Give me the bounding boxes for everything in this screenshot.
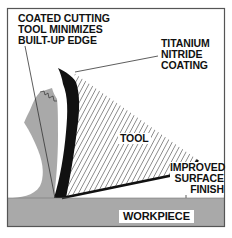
label-improved-surface-finish: IMPROVEDSURFACEFINISH bbox=[170, 162, 224, 195]
label-tin-line3: COATING bbox=[161, 59, 208, 71]
label-coated-cutting-tool: COATED CUTTINGTOOL MINIMIZESBUILT-UP EDG… bbox=[18, 13, 110, 46]
label-tool: TOOL bbox=[118, 133, 151, 144]
label-workpiece: WORKPIECE bbox=[119, 210, 194, 223]
cutting-tool-diagram: COATED CUTTINGTOOL MINIMIZESBUILT-UP EDG… bbox=[0, 0, 232, 238]
leader-line-tin bbox=[75, 56, 158, 72]
label-coated-line3: BUILT-UP EDGE bbox=[18, 34, 97, 46]
label-surface-line3: FINISH bbox=[190, 183, 224, 195]
label-titanium-nitride: TITANIUMNITRIDECOATING bbox=[161, 38, 210, 71]
